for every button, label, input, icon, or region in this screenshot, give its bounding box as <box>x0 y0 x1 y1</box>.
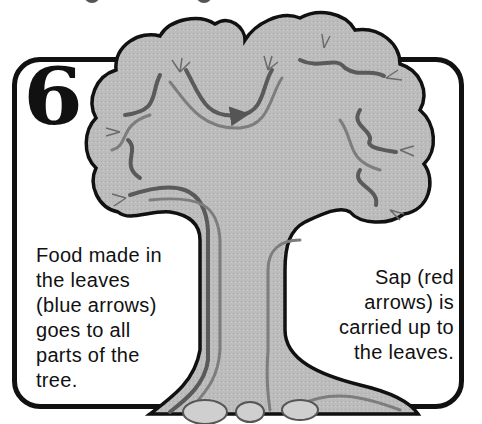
caption-line: arrows) is <box>339 290 454 315</box>
caption-food: Food made in the leaves (blue arrows) go… <box>36 243 162 393</box>
caption-line: the leaves <box>36 268 162 293</box>
caption-line: goes to all <box>36 318 162 343</box>
caption-line: carried up to <box>339 315 454 340</box>
caption-line: Food made in <box>36 243 162 268</box>
root-bulge <box>183 400 227 424</box>
caption-line: the leaves. <box>339 340 454 365</box>
root-bulge <box>236 402 264 422</box>
caption-line: Sap (red <box>339 265 454 290</box>
caption-line: (blue arrows) <box>36 293 162 318</box>
caption-sap: Sap (red arrows) is carried up to the le… <box>339 265 454 365</box>
root-bulge <box>282 400 318 420</box>
caption-line: tree. <box>36 368 162 393</box>
step-number-badge: 6 <box>23 58 83 136</box>
caption-line: parts of the <box>36 343 162 368</box>
